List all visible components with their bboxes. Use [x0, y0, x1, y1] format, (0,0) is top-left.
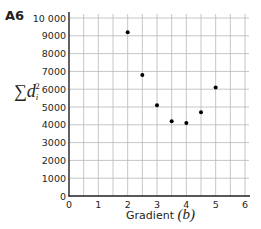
- y-tick-label: 4000: [42, 119, 66, 130]
- data-point: [184, 121, 188, 125]
- x-tick-label: 0: [66, 199, 72, 210]
- y-tick-label: 6000: [42, 84, 66, 95]
- y-tick-label: 5000: [42, 102, 66, 113]
- y-tick-label: 7000: [42, 66, 66, 77]
- y-tick-label: 8000: [42, 48, 66, 59]
- y-tick-label: 10 000: [33, 13, 66, 24]
- y-tick-label: 0: [60, 191, 66, 202]
- data-point: [170, 119, 174, 123]
- x-tick-label: 5: [213, 199, 219, 210]
- y-tick-label: 3000: [42, 137, 66, 148]
- data-point: [126, 30, 130, 34]
- scatter-plot: 0123456010002000300040005000600070008000…: [0, 0, 261, 229]
- data-point: [155, 103, 159, 107]
- x-tick-label: 4: [183, 199, 189, 210]
- y-tick-label: 2000: [42, 155, 66, 166]
- x-tick-label: 2: [125, 199, 131, 210]
- x-tick-label: 6: [242, 199, 248, 210]
- x-tick-label: 3: [154, 199, 160, 210]
- y-tick-label: 1000: [42, 173, 66, 184]
- y-tick-label: 9000: [42, 30, 66, 41]
- data-point: [214, 85, 218, 89]
- x-tick-label: 1: [95, 199, 101, 210]
- data-point: [199, 110, 203, 114]
- data-point: [140, 73, 144, 77]
